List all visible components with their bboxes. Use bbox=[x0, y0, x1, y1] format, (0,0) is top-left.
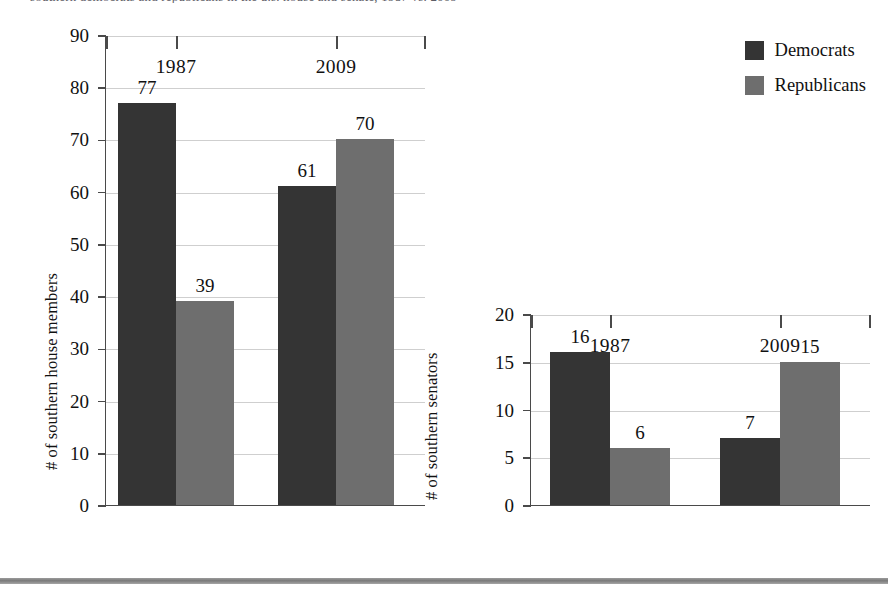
legend-item: Republicans bbox=[745, 73, 866, 97]
y-axis-tick-label: 5 bbox=[505, 447, 515, 469]
y-axis-tick bbox=[523, 410, 531, 412]
bar-house-republicans-2009 bbox=[336, 139, 394, 505]
x-axis-tick bbox=[780, 315, 782, 328]
y-axis-tick bbox=[98, 453, 106, 455]
y-axis-title-house: # of southern house members bbox=[42, 273, 62, 470]
bar-value-label: 61 bbox=[298, 160, 317, 182]
y-axis-tick-label: 60 bbox=[70, 182, 89, 204]
chart-southern-house-members: # of southern house members 010203040506… bbox=[0, 0, 445, 560]
legend-label-democrats: Democrats bbox=[775, 40, 855, 61]
bar-value-label: 7 bbox=[745, 412, 755, 434]
x-axis-tick-label-1987: 1987 bbox=[156, 56, 197, 78]
plot-area-house: 01020304050607080907739198761702009 bbox=[105, 36, 425, 506]
legend-item: Democrats bbox=[745, 38, 866, 62]
y-axis-tick bbox=[98, 244, 106, 246]
gridline bbox=[531, 315, 870, 316]
legend-swatch-democrats bbox=[745, 41, 764, 60]
y-axis-tick bbox=[98, 192, 106, 194]
bar-senate-republicans-2009 bbox=[780, 362, 840, 505]
y-axis-tick bbox=[523, 314, 531, 316]
x-axis-tick-label-2009: 2009 bbox=[760, 335, 801, 357]
legend-swatch-republicans bbox=[745, 76, 764, 95]
plot-area-senate: 0510152016619877152009 bbox=[530, 315, 870, 506]
x-axis-end-tick-left bbox=[531, 315, 533, 328]
y-axis-tick bbox=[523, 362, 531, 364]
bar-value-label: 39 bbox=[196, 275, 215, 297]
bar-value-label: 16 bbox=[571, 326, 590, 348]
y-axis-tick-label: 10 bbox=[495, 400, 514, 422]
x-axis-tick-label-2009: 2009 bbox=[316, 56, 357, 78]
bar-value-label: 15 bbox=[801, 336, 820, 358]
legend-label-republicans: Republicans bbox=[775, 75, 866, 96]
bar-senate-democrats-1987 bbox=[550, 352, 610, 505]
y-axis-tick-label: 20 bbox=[70, 391, 89, 413]
y-axis-tick-label: 40 bbox=[70, 286, 89, 308]
y-axis-tick bbox=[98, 296, 106, 298]
y-axis-tick-label: 10 bbox=[70, 443, 89, 465]
gridline bbox=[106, 36, 425, 37]
y-axis-tick-label: 20 bbox=[495, 304, 514, 326]
y-axis-tick bbox=[98, 140, 106, 142]
x-axis-tick-label-1987: 1987 bbox=[590, 335, 631, 357]
y-axis-tick-label: 80 bbox=[70, 77, 89, 99]
y-axis-tick-label: 50 bbox=[70, 234, 89, 256]
y-axis-tick-label: 90 bbox=[70, 25, 89, 47]
y-axis-title-senate: # of southern senators bbox=[422, 353, 442, 500]
x-axis-tick bbox=[176, 36, 178, 49]
bottom-divider-rule bbox=[0, 578, 888, 584]
x-axis-end-tick-right bbox=[869, 315, 871, 328]
bar-house-republicans-1987 bbox=[176, 301, 234, 505]
x-axis-end-tick-left bbox=[106, 36, 108, 49]
legend: Democrats Republicans bbox=[745, 38, 866, 108]
y-axis-tick-label: 0 bbox=[505, 495, 515, 517]
bar-value-label: 77 bbox=[138, 77, 157, 99]
bar-house-democrats-1987 bbox=[118, 103, 176, 505]
bar-house-democrats-2009 bbox=[278, 186, 336, 505]
y-axis-tick bbox=[98, 505, 106, 507]
y-axis-tick-label: 15 bbox=[495, 352, 514, 374]
bar-senate-democrats-2009 bbox=[720, 438, 780, 505]
y-axis-tick bbox=[523, 457, 531, 459]
y-axis-tick-label: 30 bbox=[70, 338, 89, 360]
y-axis-tick bbox=[98, 35, 106, 37]
y-axis-tick-label: 70 bbox=[70, 129, 89, 151]
bar-value-label: 6 bbox=[635, 422, 645, 444]
figure-bar-charts: southern democrats and republicans in th… bbox=[0, 0, 888, 597]
x-axis-tick bbox=[336, 36, 338, 49]
bar-senate-republicans-1987 bbox=[610, 448, 670, 505]
y-axis-tick bbox=[98, 401, 106, 403]
bar-value-label: 70 bbox=[356, 113, 375, 135]
y-axis-tick bbox=[98, 87, 106, 89]
x-axis-end-tick-right bbox=[424, 36, 426, 49]
x-axis-tick bbox=[610, 315, 612, 328]
y-axis-tick bbox=[98, 349, 106, 351]
y-axis-tick bbox=[523, 505, 531, 507]
y-axis-tick-label: 0 bbox=[80, 495, 90, 517]
